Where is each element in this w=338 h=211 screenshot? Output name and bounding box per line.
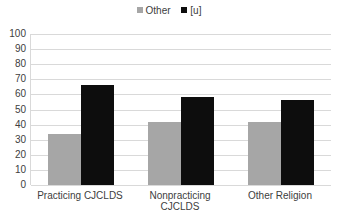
gridline [31,34,331,35]
legend-label-u: [u] [190,5,201,16]
y-tick-label: 100 [0,29,26,39]
x-tick-label: Practicing CJCLDS [30,190,130,201]
x-tick-label: Nonpracticing CJCLDS [130,190,230,211]
y-tick-label: 60 [0,89,26,99]
legend-label-other: Other [146,5,171,16]
x-tick-label: Other Religion [230,190,330,201]
y-tick-label: 20 [0,150,26,160]
y-tick-label: 50 [0,105,26,115]
chart-legend: Other [u] [0,5,338,16]
gridline [31,79,331,80]
y-tick-label: 70 [0,74,26,84]
bar [81,85,114,185]
gridline [31,64,331,65]
bar [181,97,214,185]
legend-swatch-other [137,7,143,13]
y-tick-label: 40 [0,120,26,130]
legend-swatch-u [181,7,187,13]
legend-item-other: Other [137,5,171,16]
bar [148,122,181,185]
legend-item-u: [u] [181,5,201,16]
y-tick-label: 10 [0,165,26,175]
bar [248,122,281,185]
plot-area [30,34,331,185]
y-tick-label: 80 [0,59,26,69]
y-tick-label: 0 [0,180,26,190]
y-tick-label: 90 [0,44,26,54]
y-tick-label: 30 [0,135,26,145]
gridline [31,185,331,186]
bar [48,134,81,185]
bar [281,100,314,185]
gridline [31,94,331,95]
gridline [31,49,331,50]
